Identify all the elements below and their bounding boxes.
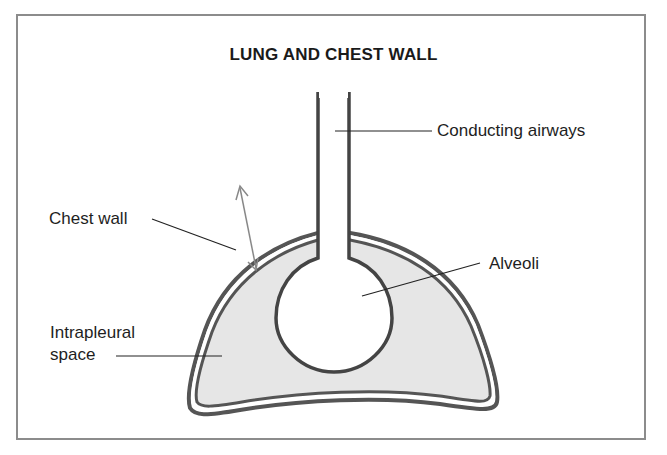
label-conducting-airways: Conducting airways xyxy=(437,121,585,141)
label-intrapleural-line1: Intrapleural xyxy=(50,323,135,343)
label-alveoli: Alveoli xyxy=(489,254,539,274)
double-arrow-icon xyxy=(236,186,258,270)
label-chest-wall: Chest wall xyxy=(49,209,127,229)
chest-wall-leader xyxy=(152,219,236,250)
label-intrapleural-line2: space xyxy=(50,345,95,365)
alveolus-and-airway xyxy=(276,92,392,372)
